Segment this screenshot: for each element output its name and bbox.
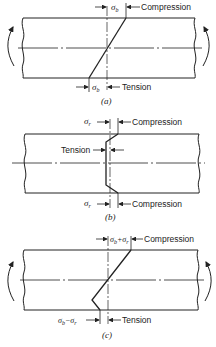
- moment-arrow-left-icon: [8, 27, 14, 66]
- sigma-b-plus-sigma-r-label: σb+σr: [110, 235, 129, 245]
- beam-outline: [24, 134, 200, 193]
- panel-b: σr Compression Tension σr Compression (b…: [12, 116, 205, 222]
- compression-label: Compression: [144, 234, 194, 244]
- top-dimension: [97, 118, 131, 134]
- bottom-dimension: [86, 310, 121, 324]
- residual-stress-profile: [106, 134, 118, 193]
- tension-label: Tension: [122, 315, 152, 325]
- compression-label: Compression: [132, 199, 182, 209]
- stress-distribution-diagram: σb Compression σb Tension (a) σr Compres…: [0, 0, 216, 347]
- compression-label: Compression: [132, 117, 182, 127]
- panel-caption: (a): [101, 96, 112, 106]
- panel-a: σb Compression σb Tension (a): [8, 2, 209, 106]
- sigma-r-label: σr: [84, 116, 91, 127]
- bottom-dimension: [97, 193, 131, 208]
- panel-caption: (b): [105, 212, 116, 222]
- tension-label: Tension: [61, 145, 91, 155]
- compression-label: Compression: [141, 2, 191, 12]
- sigma-r-label: σr: [84, 198, 91, 209]
- sigma-b-label: σb: [92, 82, 99, 93]
- tension-label: Tension: [122, 82, 152, 92]
- moment-arrow-right-icon: [205, 262, 211, 301]
- sigma-b-label: σb: [111, 2, 118, 13]
- panel-caption: (c): [102, 330, 112, 340]
- panel-c: σb+σr Compression σb−σr Tension (c): [8, 234, 211, 340]
- moment-arrow-left-icon: [8, 262, 14, 301]
- sigma-b-minus-sigma-r-label: σb−σr: [58, 316, 77, 326]
- moment-arrow-right-icon: [203, 27, 209, 66]
